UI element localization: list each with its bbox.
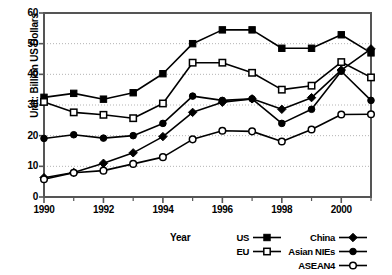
legend-label: EU (236, 246, 249, 257)
data-point (160, 120, 167, 127)
data-point (160, 71, 166, 77)
legend-label: US (236, 232, 249, 243)
series-line (44, 62, 371, 118)
legend-marker-filled-circle (338, 246, 368, 257)
data-point (338, 32, 344, 38)
series-us (41, 27, 374, 103)
plot-frame (44, 13, 371, 197)
data-point (189, 59, 195, 65)
data-point (130, 115, 136, 121)
data-point (279, 138, 286, 145)
series-line (44, 114, 371, 179)
data-point (219, 59, 225, 65)
legend-item-eu: EU (196, 245, 282, 258)
legend-marker-filled-diamond (338, 232, 368, 243)
x-tick-label: 1990 (28, 204, 60, 215)
data-point (249, 128, 256, 135)
data-point (219, 127, 226, 134)
legend-label: China (310, 232, 335, 243)
series-eu (41, 59, 374, 122)
legend-marker-open-circle (338, 260, 368, 271)
data-point (219, 97, 226, 104)
data-point (99, 159, 107, 167)
data-point (189, 93, 196, 100)
data-point (308, 106, 315, 113)
data-point (70, 131, 77, 138)
data-point (160, 154, 167, 161)
data-point (249, 96, 256, 103)
y-tick-label: 10 (14, 160, 38, 171)
data-point (160, 100, 166, 106)
data-point (71, 109, 77, 115)
data-point (368, 97, 375, 104)
data-point (308, 82, 314, 88)
data-point (338, 59, 344, 65)
data-point (279, 45, 285, 51)
data-point (368, 111, 375, 118)
data-point (279, 86, 285, 92)
data-point (130, 161, 137, 168)
data-point (130, 132, 137, 139)
data-point (368, 74, 374, 80)
data-point (41, 176, 48, 183)
data-point (338, 68, 345, 75)
legend-item-us: US (196, 231, 282, 244)
legend-marker-filled-square (252, 232, 282, 243)
y-tick-label: 0 (14, 191, 38, 202)
data-point (100, 112, 106, 118)
y-tick-label: 40 (14, 68, 38, 79)
line-chart: Unit: Billion US Dollars Year 0102030405… (0, 0, 392, 275)
data-point (41, 135, 48, 142)
series-asean4 (41, 111, 375, 183)
chart-legend: USEUChinaAsian NIEsASEAN4 (196, 231, 392, 275)
series-line (44, 71, 371, 138)
x-axis-title: Year (170, 232, 190, 243)
y-tick-label: 30 (14, 99, 38, 110)
data-point (70, 169, 77, 176)
data-point (308, 45, 314, 51)
data-point (100, 167, 107, 174)
data-point (129, 149, 137, 157)
x-tick-label: 1994 (147, 204, 179, 215)
data-point (219, 27, 225, 33)
y-tick-label: 60 (14, 7, 38, 18)
legend-marker-open-square (252, 246, 282, 257)
data-point (338, 111, 345, 118)
legend-item-china: China (282, 231, 368, 244)
data-point (100, 135, 107, 142)
data-point (249, 27, 255, 33)
x-tick-label: 1998 (266, 204, 298, 215)
legend-label: ASEAN4 (298, 260, 335, 271)
data-point (308, 126, 315, 133)
x-tick-label: 2000 (325, 204, 357, 215)
y-tick-label: 20 (14, 130, 38, 141)
data-point (100, 96, 106, 102)
y-tick-label: 50 (14, 38, 38, 49)
data-point (130, 90, 136, 96)
legend-item-asian-nies: Asian NIEs (282, 245, 368, 258)
legend-item-asean4: ASEAN4 (282, 259, 368, 272)
data-point (278, 105, 286, 113)
data-point (189, 136, 196, 143)
data-point (41, 99, 47, 105)
x-tick-label: 1996 (206, 204, 238, 215)
series-asian-nies (41, 68, 375, 142)
x-tick-label: 1992 (87, 204, 119, 215)
data-point (71, 90, 77, 96)
data-point (279, 120, 286, 127)
data-point (189, 40, 195, 46)
legend-label: Asian NIEs (288, 246, 335, 257)
data-point (249, 70, 255, 76)
